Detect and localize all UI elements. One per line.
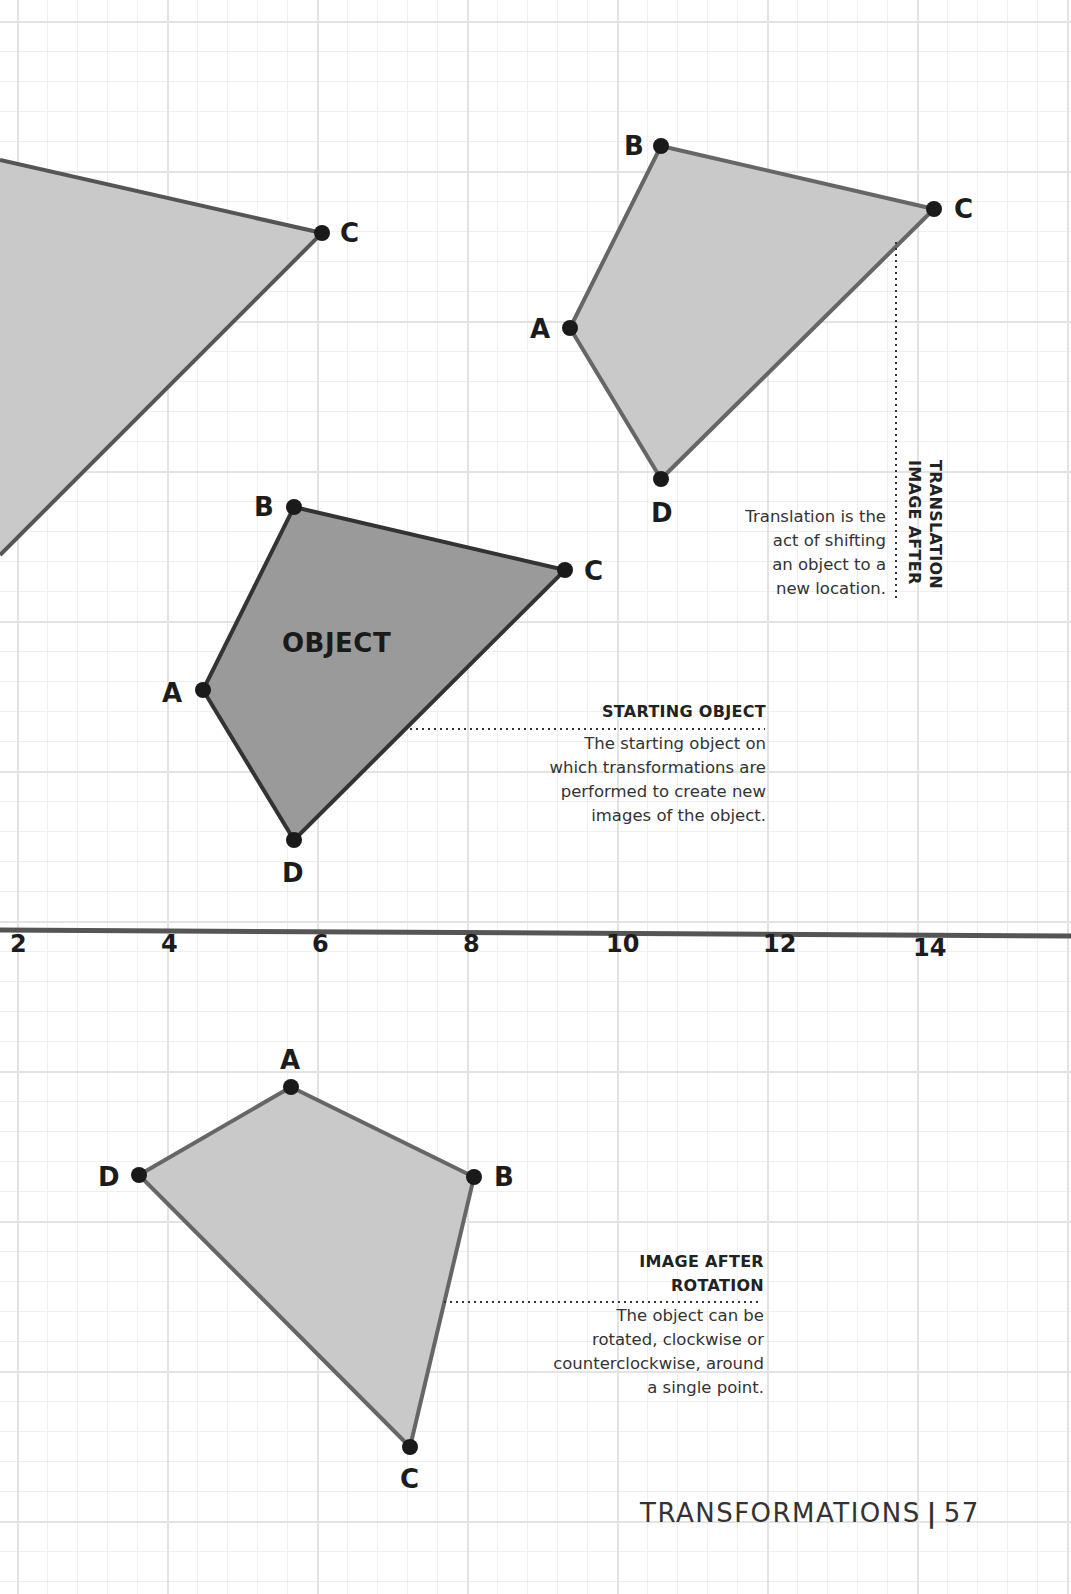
vertex-label-rotated-a: A xyxy=(280,1047,300,1073)
axis-tick-6: 6 xyxy=(312,930,329,958)
vertex-dot-rotated-a xyxy=(283,1079,299,1095)
axis-tick-12: 12 xyxy=(763,930,796,958)
starting-object-text-line: which transformations are xyxy=(500,756,766,780)
vertex-label-object-c: C xyxy=(584,558,603,584)
page-number: 57 xyxy=(944,1498,980,1528)
starting-object-text-line: images of the object. xyxy=(500,804,766,828)
translation-text-line: new location. xyxy=(700,577,886,601)
vertex-dot-object-c xyxy=(557,562,573,578)
vertex-label-rotated-d: D xyxy=(98,1164,120,1190)
vertex-dot-object-b xyxy=(286,499,302,515)
translated-image-polygon xyxy=(570,146,934,479)
vertex-label-partial-c: C xyxy=(340,220,359,246)
footer-section-title: TRANSFORMATIONS xyxy=(640,1498,921,1528)
rotation-heading-line2: ROTATION xyxy=(500,1274,764,1298)
rotation-text-line: rotated, clockwise or xyxy=(500,1328,764,1352)
vertex-dot-translated-a xyxy=(562,320,578,336)
translation-heading-line1: IMAGE AFTER xyxy=(905,460,924,585)
vertex-dot-object-d xyxy=(286,832,302,848)
vertex-label-object-d: D xyxy=(282,860,304,886)
axis-tick-10: 10 xyxy=(606,930,639,958)
starting-object-text-line: The starting object on xyxy=(500,732,766,756)
starting-object-text-line: performed to create new xyxy=(500,780,766,804)
rotation-text-line: The object can be xyxy=(500,1304,764,1328)
vertex-dot-translated-b xyxy=(653,138,669,154)
vertex-dot-rotated-d xyxy=(131,1167,147,1183)
vertex-dot-object-a xyxy=(195,682,211,698)
axis-tick-4: 4 xyxy=(161,930,178,958)
vertex-label-object-b: B xyxy=(254,494,274,520)
translation-text-line: act of shifting xyxy=(700,529,886,553)
vertex-label-translated-d: D xyxy=(651,500,673,526)
vertex-dot-rotated-b xyxy=(466,1169,482,1185)
rotation-text-line: counterclockwise, around xyxy=(500,1352,764,1376)
footer-separator: | xyxy=(927,1498,938,1528)
translation-text-line: an object to a xyxy=(700,553,886,577)
vertex-label-rotated-c: C xyxy=(400,1466,419,1492)
translation-heading: TRANSLATION IMAGE AFTER xyxy=(904,460,946,589)
vertex-dot-translated-d xyxy=(653,471,669,487)
vertex-dot-translated-c xyxy=(926,201,942,217)
vertex-label-translated-b: B xyxy=(624,133,644,159)
vertex-dot-rotated-c xyxy=(402,1439,418,1455)
rotation-annotation: IMAGE AFTER ROTATION The object can be r… xyxy=(500,1250,764,1400)
vertex-label-rotated-b: B xyxy=(494,1164,514,1190)
page-footer: TRANSFORMATIONS|57 xyxy=(640,1498,980,1528)
translation-heading-line2: TRANSLATION xyxy=(926,460,945,589)
axis-tick-14: 14 xyxy=(913,934,946,962)
object-title: OBJECT xyxy=(282,628,391,658)
rotation-text-line: a single point. xyxy=(500,1376,764,1400)
vertex-label-object-a: A xyxy=(162,680,182,706)
axis-tick-8: 8 xyxy=(463,930,480,958)
translation-text-line: Translation is the xyxy=(700,505,886,529)
rotation-heading-line1: IMAGE AFTER xyxy=(500,1250,764,1274)
vertex-label-translated-a: A xyxy=(530,316,550,342)
vertex-label-translated-c: C xyxy=(954,196,973,222)
translation-annotation: Translation is the act of shifting an ob… xyxy=(700,505,886,601)
rotated-image-polygon xyxy=(139,1087,474,1447)
starting-object-annotation: STARTING OBJECT The starting object on w… xyxy=(500,700,766,828)
starting-object-heading: STARTING OBJECT xyxy=(500,700,766,726)
vertex-dot-partial-c xyxy=(314,225,330,241)
axis-tick-2: 2 xyxy=(10,930,27,958)
